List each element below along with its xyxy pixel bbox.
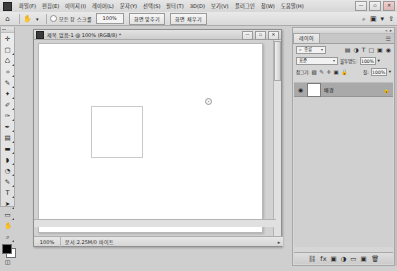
layer-style-button[interactable]: fx [320, 255, 326, 263]
filter-adjustment-icon[interactable]: ◑ [353, 46, 358, 53]
active-tool-icon[interactable]: ✋ [23, 14, 32, 23]
menu-item-image[interactable]: 이미지(I) [62, 0, 89, 12]
tool-clone-stamp[interactable]: ✑ [1, 110, 14, 121]
lock-transparent-icon[interactable]: ▨ [312, 69, 317, 75]
adjustment-layer-button[interactable]: ◑ [341, 255, 347, 263]
chevron-down-icon[interactable]: ▾ [333, 57, 335, 65]
filter-toggle-icon[interactable]: ◉ [386, 46, 391, 53]
tool-healing-brush[interactable]: ✦ [1, 88, 14, 99]
filter-shape-icon[interactable]: ▢ [368, 46, 374, 53]
fill-arrow[interactable]: ▾ [389, 69, 391, 74]
home-icon[interactable]: ⌂ [3, 14, 12, 23]
lock-position-icon[interactable]: ✛ [326, 69, 331, 75]
document-minimize-button[interactable]: — [242, 31, 253, 40]
tab-layers[interactable]: 레이어 [293, 33, 320, 43]
tool-gradient[interactable]: ▬ [1, 143, 14, 154]
new-layer-button[interactable]: ▣ [360, 255, 366, 263]
menu-item-filter[interactable]: 필터(T) [163, 0, 186, 12]
tool-preset-arrow[interactable]: ▾ [36, 16, 39, 22]
workspace-icon[interactable]: ▣ [370, 15, 377, 23]
canvas-horizontal-scrollbar[interactable] [34, 219, 276, 227]
status-expand-arrow[interactable]: ▸ [275, 239, 283, 245]
tool-eyedropper[interactable]: ✎ [1, 77, 14, 88]
layer-lock-icon[interactable]: 🔒 [383, 87, 390, 93]
filter-kind-select[interactable]: ⌕ 종류 ▾ [296, 46, 326, 54]
quick-mask-icon[interactable]: ◫ [1, 257, 14, 265]
chevron-down-icon[interactable]: ▾ [321, 46, 323, 54]
opacity-arrow[interactable]: ▾ [378, 58, 380, 63]
canvas-rectangle-shape[interactable] [91, 106, 143, 158]
share-icon[interactable]: ⇪ [388, 15, 394, 23]
filter-type-icon[interactable]: T [362, 46, 366, 53]
fill-screen-button[interactable]: 화면 채우기 [170, 13, 207, 25]
layer-name[interactable]: 배경 [324, 86, 380, 93]
tool-blur[interactable]: ◗ [1, 154, 14, 165]
close-button[interactable]: ✕ [383, 1, 395, 11]
tool-dodge[interactable]: ◔ [1, 165, 14, 176]
canvas-area[interactable] [34, 40, 281, 237]
delete-layer-button[interactable]: 🗑 [371, 255, 379, 263]
status-zoom-field[interactable]: 100% [34, 237, 61, 247]
opacity-field[interactable]: 100% [360, 57, 376, 65]
canvas-vertical-scroll-thumb[interactable] [274, 41, 281, 81]
filter-smart-icon[interactable]: ▣ [377, 46, 383, 53]
color-swatches[interactable] [2, 244, 15, 257]
fit-screen-button[interactable]: 화면 맞추기 [129, 13, 166, 25]
layer-thumbnail[interactable] [307, 83, 321, 97]
layer-mask-button[interactable]: ▣ [331, 255, 337, 263]
tool-type[interactable]: T [1, 187, 14, 198]
foreground-color-swatch[interactable] [2, 244, 12, 254]
tool-brush[interactable]: ✐ [1, 99, 14, 110]
menu-item-edit[interactable]: 편집(E) [39, 0, 62, 12]
table-row[interactable]: ◉ 배경 🔒 [294, 82, 393, 97]
menu-item-view[interactable]: 보기(V) [208, 0, 232, 12]
menu-item-plugins[interactable]: 플러그인 [232, 0, 258, 12]
tool-shape[interactable]: ▭ [1, 209, 14, 220]
tool-crop[interactable]: ⌗ [1, 66, 14, 77]
tool-marquee[interactable]: ▢ [1, 44, 14, 55]
lock-nesting-icon[interactable]: ▣ [333, 69, 338, 75]
tool-pen[interactable]: ✎ [1, 176, 14, 187]
canvas[interactable] [38, 43, 263, 233]
lock-all-icon[interactable]: 🔒 [341, 69, 348, 75]
scroll-all-windows-checkbox[interactable] [50, 15, 57, 22]
tool-hand[interactable]: ✋ [1, 220, 14, 231]
document-close-button[interactable]: ✕ [268, 31, 279, 40]
canvas-vertical-scrollbar[interactable] [273, 40, 281, 237]
menu-item-3d[interactable]: 3D(D) [187, 0, 208, 12]
tool-lasso[interactable]: ♺ [1, 55, 14, 66]
maximize-button[interactable]: ▫ [369, 1, 381, 11]
tool-eraser[interactable]: ▤ [1, 132, 14, 143]
tool-history-brush[interactable]: ✒ [1, 121, 14, 132]
tool-zoom[interactable]: ⌕ [1, 231, 14, 242]
tool-move[interactable]: ✛ [1, 33, 14, 44]
fill-field[interactable]: 100% [371, 68, 387, 76]
lock-image-icon[interactable]: ✎ [319, 69, 324, 75]
opacity-label: 불투명도: [340, 58, 358, 64]
document-title-bar[interactable]: 제목 없음-1 @ 100% (RGB/8) * — ▫ ✕ [34, 30, 281, 40]
search-icon[interactable]: ⌕ [362, 15, 366, 23]
blend-mode-select[interactable]: 표준 ▾ [296, 57, 338, 65]
menu-item-file[interactable]: 파일(F) [16, 0, 39, 12]
options-bar-right: ⌕ ▣ ▾ ⇪ [362, 15, 394, 23]
zoom-field[interactable]: 100% [96, 13, 124, 24]
eye-icon[interactable]: ◉ [297, 86, 304, 93]
panel-menu-icon[interactable]: ☰ [386, 34, 394, 43]
filter-kind-icon: ⌕ [299, 46, 302, 54]
minimize-button[interactable]: — [355, 1, 367, 11]
panel-collapse-icon[interactable]: « [385, 28, 388, 33]
menu-item-select[interactable]: 선택(S) [140, 0, 163, 12]
menu-item-type[interactable]: 문자(Y) [117, 0, 140, 12]
tool-path-selection[interactable]: ➤ [1, 198, 14, 209]
new-group-button[interactable]: ▭ [350, 255, 356, 263]
chevron-down-icon[interactable]: ▾ [381, 15, 385, 23]
panel-expand-icon[interactable]: ▸ [390, 28, 392, 33]
menu-item-help[interactable]: 도움말(H) [278, 0, 307, 12]
link-layers-button[interactable]: ⛓ [308, 255, 316, 263]
menu-item-layer[interactable]: 레이어(L) [89, 0, 117, 12]
blend-mode-row: 표준 ▾ 불투명도: 100% ▾ [293, 55, 394, 66]
filter-pixel-icon[interactable]: ▤ [345, 46, 351, 53]
layer-list[interactable]: ◉ 배경 🔒 [294, 82, 393, 247]
document-maximize-button[interactable]: ▫ [255, 31, 266, 40]
menu-item-window[interactable]: 창(W) [258, 0, 278, 12]
